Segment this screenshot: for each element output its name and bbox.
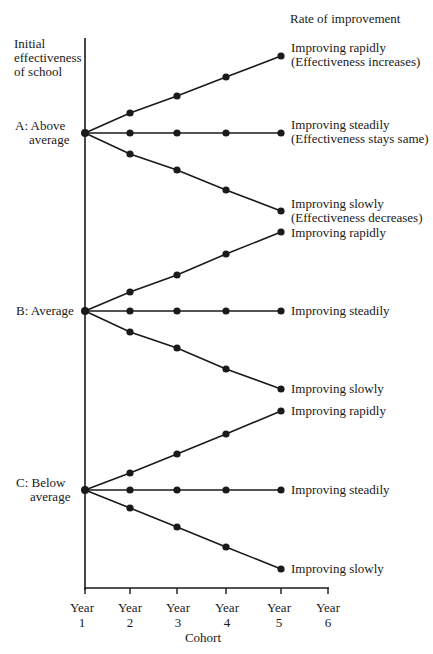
tick-year6-num: 6: [325, 615, 332, 630]
group-b-rapid-line: [85, 232, 281, 311]
group-a-slow-line: [85, 133, 281, 211]
group-c-slow-label: Improving slowly: [291, 561, 384, 576]
group-a-label-line1: A: Above: [15, 118, 65, 133]
group-b-rapid-label: Improving rapidly: [291, 225, 386, 240]
group-a: A: Above average Improving rapidly (Effe…: [15, 40, 429, 225]
axis-title-line2: effectiveness: [14, 50, 82, 65]
group-c-rapid-line: [85, 411, 281, 490]
group-a-slow-note: (Effectiveness decreases): [291, 210, 423, 225]
tick-year4-num: 4: [224, 615, 231, 630]
group-a-steady-note: (Effectiveness stays same): [291, 131, 429, 146]
tick-year1-num: 1: [79, 615, 86, 630]
group-c: C: Below average Improving rapidly Impro…: [16, 403, 390, 576]
x-tick-labels: Year 1 Year 2 Year 3 Year 4 Year 5 Year …: [70, 600, 341, 630]
group-b-slow-label: Improving slowly: [291, 381, 384, 396]
tick-year4-word: Year: [215, 600, 240, 615]
group-a-rapid-note: (Effectiveness increases): [291, 54, 420, 69]
group-c-label-line2: average: [30, 489, 71, 504]
tick-year2-num: 2: [127, 615, 134, 630]
axis-title-line3: of school: [14, 64, 62, 79]
group-b-label: B: Average: [16, 303, 74, 318]
group-c-slow-line: [85, 490, 281, 569]
tick-year2-word: Year: [118, 600, 143, 615]
tick-year6-word: Year: [316, 600, 341, 615]
tick-year1-word: Year: [70, 600, 95, 615]
axis-title-line1: Initial: [14, 36, 45, 51]
group-c-rapid-label: Improving rapidly: [291, 403, 386, 418]
x-axis-title: Cohort: [185, 630, 222, 645]
group-a-steady-label: Improving steadily: [291, 117, 390, 132]
group-a-slow-label: Improving slowly: [291, 196, 384, 211]
group-a-label-line2: average: [29, 132, 70, 147]
x-axis-ticks: [85, 588, 328, 594]
tick-year3-num: 3: [175, 615, 182, 630]
school-effectiveness-diagram: Initial effectiveness of school Rate of …: [0, 0, 433, 654]
tick-year5-word: Year: [267, 600, 292, 615]
group-a-rapid-line: [85, 56, 281, 133]
legend-title: Rate of improvement: [290, 11, 401, 26]
group-b: B: Average Improving rapidly Improving s…: [16, 225, 390, 396]
tick-year5-num: 5: [276, 615, 283, 630]
group-c-steady-label: Improving steadily: [291, 482, 390, 497]
tick-year3-word: Year: [166, 600, 191, 615]
group-b-slow-line: [85, 311, 281, 389]
group-a-rapid-label: Improving rapidly: [291, 40, 386, 55]
group-c-label-line1: C: Below: [16, 475, 66, 490]
group-b-steady-label: Improving steadily: [291, 303, 390, 318]
